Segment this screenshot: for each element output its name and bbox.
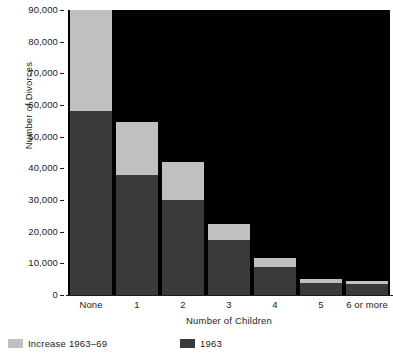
y-tick-mark [60,263,64,264]
bar-segment-1963 [208,240,251,295]
y-tick-label: 30,000 [28,195,58,205]
y-tick-mark [60,232,64,233]
y-tick-label: 80,000 [28,37,58,47]
y-tick-mark [60,137,64,138]
bar-3 [208,224,251,295]
bar-6-or-more [346,281,389,295]
legend-label: 1963 [200,338,222,349]
y-tick-mark [60,10,64,11]
x-axis-tick-labels: None123456 or more [68,299,390,313]
bar-segment-1963 [116,175,159,295]
bar-1 [116,122,159,295]
y-tick-label: 50,000 [28,132,58,142]
bar-segment-1963 [300,283,343,295]
y-tick-mark [60,73,64,74]
bar-segment-increase [254,258,297,267]
bar-segment-increase [208,224,251,240]
y-tick-label: 40,000 [28,163,58,173]
legend-entry: Increase 1963–69 [8,337,107,349]
y-tick-label: 60,000 [28,100,58,110]
bar-2 [162,162,205,295]
bar-5 [300,279,343,295]
bar-segment-increase [162,162,205,200]
y-tick-mark [60,168,64,169]
y-axis-tick-labels: 010,00020,00030,00040,00050,00060,00070,… [0,0,66,300]
x-axis-title: Number of Children [68,315,390,326]
y-tick-label: 10,000 [28,258,58,268]
x-axis-line [66,295,393,296]
bar-segment-increase [70,10,113,111]
y-tick-label: 20,000 [28,227,58,237]
y-tick-mark [60,42,64,43]
chart-legend: Increase 1963–691963 [8,337,393,351]
plot-area [68,10,390,295]
bar-segment-1963 [70,111,113,295]
bar-segment-1963 [162,200,205,295]
bar-segment-1963 [254,267,297,295]
legend-swatch [8,339,23,348]
bar-4 [254,258,297,295]
bar-none [70,10,113,295]
y-tick-mark [60,200,64,201]
y-tick-label: 0 [53,290,58,300]
y-tick-label: 90,000 [28,5,58,15]
bar-segment-increase [116,122,159,174]
y-tick-label: 70,000 [28,68,58,78]
x-tick-label: 6 or more [337,299,393,310]
bar-segment-1963 [346,284,389,295]
bar-chart-figure: Number of Divorces 010,00020,00030,00040… [0,0,393,355]
legend-swatch [180,339,195,348]
y-tick-mark [60,105,64,106]
legend-label: Increase 1963–69 [28,338,107,349]
legend-entry: 1963 [180,337,222,349]
y-tick-mark [60,295,64,296]
